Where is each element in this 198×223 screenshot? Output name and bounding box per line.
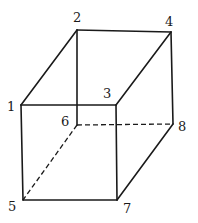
vertex-label-6: 6 [61, 114, 69, 129]
cube-diagram: 12345678 [0, 0, 198, 223]
vertex-label-4: 4 [165, 14, 173, 29]
vertex-label-5: 5 [8, 199, 16, 214]
vertex-label-3: 3 [103, 86, 111, 101]
edge-4-8 [171, 32, 173, 124]
hidden-edge-6-5 [23, 125, 77, 200]
vertex-label-1: 1 [7, 99, 15, 114]
vertex-label-2: 2 [73, 10, 81, 25]
edge-2-4 [77, 30, 171, 32]
vertex-label-7: 7 [123, 201, 131, 216]
edge-3-4 [116, 32, 171, 105]
edge-3-7 [116, 105, 117, 200]
solid-edges [21, 30, 173, 200]
edge-1-2 [21, 30, 77, 105]
edge-1-5 [21, 105, 23, 200]
edge-7-8 [117, 124, 173, 200]
hidden-edge-6-8 [77, 124, 173, 125]
hidden-edges [23, 124, 173, 200]
vertex-label-8: 8 [178, 119, 186, 134]
